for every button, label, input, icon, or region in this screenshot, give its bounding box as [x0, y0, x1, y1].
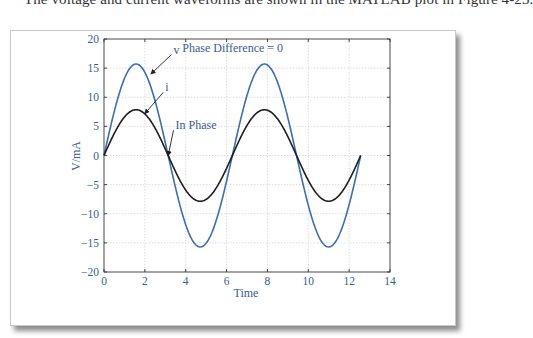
annotation-arrow: [168, 130, 173, 155]
grid-lines: [104, 39, 390, 272]
x-tick-label: 4: [183, 275, 189, 287]
y-tick-label: −20: [81, 266, 99, 278]
annotation-label: Phase Difference = 0: [182, 41, 283, 55]
y-tick-label: 5: [93, 120, 99, 132]
y-tick-label: 20: [88, 33, 100, 45]
y-tick-label: −15: [81, 237, 99, 249]
x-tick-label: 12: [343, 275, 355, 287]
x-tick-label: 2: [142, 275, 148, 287]
annotation-arrow: [151, 55, 171, 74]
x-tick-label: 14: [384, 275, 396, 287]
x-tick-label: 6: [224, 275, 230, 287]
y-tick-label: 0: [93, 150, 99, 162]
x-tick-label: 10: [303, 275, 315, 287]
y-axis-label: V/mA: [69, 141, 83, 171]
annotation-label: i: [165, 80, 169, 94]
x-axis-label: Time: [234, 286, 259, 300]
y-tick-label: −5: [87, 179, 99, 191]
curves: [104, 64, 361, 247]
annotation-label: v: [173, 43, 179, 57]
series-i-line: [104, 110, 361, 201]
x-tick-label: 8: [265, 275, 271, 287]
y-tick-label: −10: [81, 208, 99, 220]
annotations: Phase Difference = 0viIn Phase: [145, 41, 283, 156]
annotation-label: In Phase: [176, 118, 217, 132]
y-tick-label: 10: [88, 91, 100, 103]
y-tick-label: 15: [88, 62, 100, 74]
x-tick-label: 0: [101, 275, 107, 287]
